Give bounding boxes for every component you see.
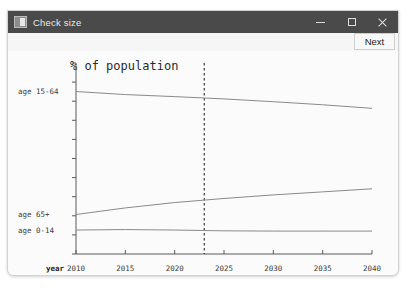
- x-axis-tick-label: 2030: [264, 264, 283, 273]
- x-axis-ticks: [76, 250, 372, 254]
- series-line-age-15-64: [76, 92, 372, 109]
- x-axis-tick-label: 2025: [215, 264, 233, 273]
- window-titlebar[interactable]: Check size: [8, 11, 398, 33]
- x-axis-label: year: [46, 264, 65, 273]
- x-axis-tick-label: 2040: [363, 264, 382, 273]
- window-title: Check size: [33, 17, 81, 28]
- maximize-icon: [348, 18, 356, 26]
- app-window-icon: [14, 16, 27, 28]
- next-button[interactable]: Next: [354, 33, 395, 50]
- x-axis-tick-labels: 2010201520202025203020352040: [67, 264, 382, 273]
- minimize-icon: [316, 22, 325, 23]
- y-axis-ticks: [72, 63, 76, 254]
- x-axis-tick-label: 2020: [166, 264, 185, 273]
- chart-title: % of population: [70, 59, 178, 73]
- application-window: Check size Next % of population: [7, 10, 399, 276]
- toolbar: Next: [8, 33, 398, 51]
- series-line-age-65-plus: [76, 189, 372, 215]
- close-icon: [378, 18, 387, 27]
- chart-canvas: % of population age 15-64 age 65+ age 0-…: [8, 51, 398, 276]
- close-button[interactable]: [367, 11, 398, 33]
- chart-axes: [76, 63, 372, 254]
- minimize-button[interactable]: [305, 11, 336, 33]
- series-line-age-0-14: [76, 230, 372, 232]
- maximize-button[interactable]: [336, 11, 367, 33]
- series-label-age-0-14: age 0-14: [18, 226, 55, 235]
- series-label-age-15-64: age 15-64: [18, 87, 59, 96]
- x-axis-tick-label: 2035: [314, 264, 332, 273]
- series-label-age-65-plus: age 65+: [18, 210, 50, 219]
- screenshot-root: Check size Next % of population: [0, 0, 406, 289]
- x-axis-tick-label: 2010: [67, 264, 86, 273]
- x-axis-tick-label: 2015: [116, 264, 134, 273]
